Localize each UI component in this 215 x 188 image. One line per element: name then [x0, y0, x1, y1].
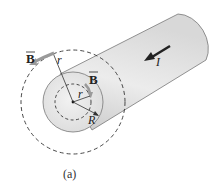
label-radius: R	[87, 113, 96, 127]
label-r-inner: r	[78, 87, 83, 101]
label-b-outer: B	[26, 51, 35, 66]
label-b-inner: B	[89, 72, 98, 87]
figure-caption: (a)	[63, 167, 76, 181]
svg-text:B: B	[89, 72, 98, 87]
svg-text:B: B	[26, 51, 35, 66]
cylinder-field-diagram: B B r r R I (a)	[0, 0, 215, 188]
label-r-outer: r	[57, 53, 62, 67]
